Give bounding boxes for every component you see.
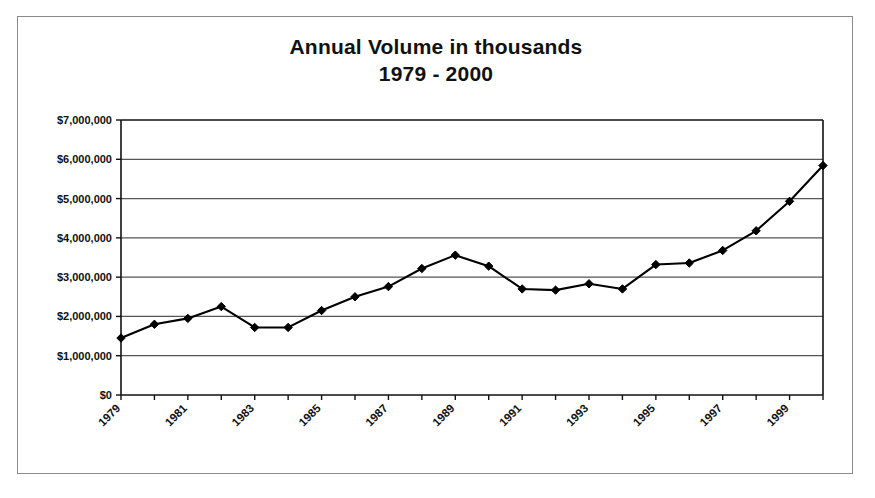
data-point-marker [551, 286, 559, 294]
data-series-line [121, 166, 823, 338]
y-tick-label: $4,000,000 [57, 232, 112, 244]
x-tick-label: 1997 [698, 402, 725, 429]
x-tick-label: 1981 [163, 402, 190, 429]
y-tick-label: $5,000,000 [57, 193, 112, 205]
x-axis-tick-labels: 1979198119831985198719891991199319951997… [96, 402, 791, 429]
data-point-marker [451, 251, 459, 259]
x-tick-label: 1999 [764, 402, 791, 429]
x-tick-label: 1987 [363, 402, 390, 429]
data-point-marker [685, 259, 693, 267]
chart-frame: Annual Volume in thousands 1979 - 2000 $… [17, 16, 853, 474]
data-point-marker [351, 293, 359, 301]
x-tick-label: 1979 [96, 402, 123, 429]
x-tick-label: 1993 [564, 402, 591, 429]
y-axis-tick-labels: $0$1,000,000$2,000,000$3,000,000$4,000,0… [57, 114, 112, 401]
gridlines-group [121, 159, 823, 355]
x-tick-label: 1989 [430, 402, 457, 429]
data-point-marker [585, 280, 593, 288]
y-tick-label: $2,000,000 [57, 310, 112, 322]
x-tick-label: 1995 [631, 402, 658, 429]
x-tick-label: 1991 [497, 402, 524, 429]
data-point-marker [150, 320, 158, 328]
data-point-marker [184, 314, 192, 322]
line-chart-plot: $0$1,000,000$2,000,000$3,000,000$4,000,0… [18, 17, 854, 475]
data-point-marker [117, 334, 125, 342]
y-tick-label: $3,000,000 [57, 271, 112, 283]
data-point-marker [284, 323, 292, 331]
y-tick-label: $6,000,000 [57, 153, 112, 165]
y-tick-label: $1,000,000 [57, 350, 112, 362]
x-tick-label: 1985 [296, 402, 323, 429]
data-point-marker [384, 282, 392, 290]
data-series-markers [117, 161, 827, 342]
data-point-marker [418, 264, 426, 272]
y-tick-label: $7,000,000 [57, 114, 112, 126]
data-point-marker [317, 306, 325, 314]
x-tick-label: 1983 [230, 402, 257, 429]
y-tick-label: $0 [100, 389, 112, 401]
